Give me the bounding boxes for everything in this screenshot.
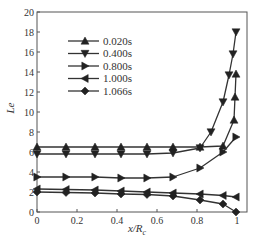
y-tick-label: 4 [29, 167, 34, 178]
legend-label: 1.000s [103, 72, 132, 84]
legend-item: 1.000s [68, 72, 132, 84]
y-tick-label: 20 [24, 7, 34, 18]
triangle-left-marker-icon [232, 193, 239, 201]
y-tick-label: 12 [24, 87, 34, 98]
triangle-right-marker-icon [144, 174, 151, 182]
x-tick-label: 0.4 [111, 215, 124, 226]
y-tick-label: 0 [29, 207, 34, 218]
triangle-left-marker-icon [81, 75, 88, 83]
series-0.800s [34, 133, 240, 182]
triangle-right-marker-icon [233, 133, 240, 141]
diamond-marker-icon [81, 87, 89, 95]
y-tick-label: 10 [24, 107, 34, 118]
triangle-left-marker-icon [219, 192, 226, 200]
triangle-down-marker-icon [232, 29, 240, 36]
y-axis: 02468101214161820 [24, 7, 40, 218]
legend-item: 0.020s [68, 35, 132, 47]
series-0.020s [33, 70, 240, 150]
line-chart: 02468101214161820 00.20.40.60.81 0.020s0… [0, 0, 257, 242]
y-tick-label: 16 [24, 47, 34, 58]
legend-item: 0.400s [68, 47, 132, 59]
triangle-down-marker-icon [229, 51, 237, 58]
legend-label: 0.400s [103, 47, 132, 59]
y-tick-label: 8 [29, 127, 34, 138]
legend: 0.020s0.400s0.800s1.000s1.066s [68, 35, 132, 97]
x-tick-label: 1 [235, 215, 240, 226]
plot-frame [37, 12, 247, 212]
triangle-right-marker-icon [170, 173, 177, 181]
triangle-down-marker-icon [225, 72, 233, 79]
legend-label: 0.020s [103, 35, 132, 47]
x-tick-label: 0 [35, 215, 40, 226]
triangle-right-marker-icon [92, 173, 99, 181]
triangle-right-marker-icon [63, 173, 70, 181]
series-group [33, 29, 240, 216]
x-tick-label: 0.2 [71, 215, 84, 226]
y-tick-label: 6 [29, 147, 34, 158]
x-axis-label: x/Rc [127, 222, 147, 237]
legend-item: 0.800s [68, 60, 132, 72]
triangle-up-marker-icon [230, 116, 238, 123]
legend-label: 1.066s [103, 85, 132, 97]
triangle-up-marker-icon [232, 70, 240, 77]
series-0.400s [33, 29, 240, 158]
y-tick-label: 18 [24, 27, 34, 38]
y-axis-label: Le [4, 102, 16, 114]
triangle-right-marker-icon [82, 62, 89, 70]
legend-label: 0.800s [103, 60, 132, 72]
triangle-down-marker-icon [219, 99, 227, 106]
y-tick-label: 14 [24, 67, 34, 78]
diamond-marker-icon [219, 200, 227, 208]
x-tick-label: 0.8 [191, 215, 204, 226]
x-tick-label: 0.6 [151, 215, 164, 226]
triangle-down-marker-icon [207, 129, 215, 136]
legend-item: 1.066s [68, 85, 132, 97]
triangle-up-marker-icon [231, 93, 239, 100]
triangle-right-marker-icon [118, 174, 125, 182]
